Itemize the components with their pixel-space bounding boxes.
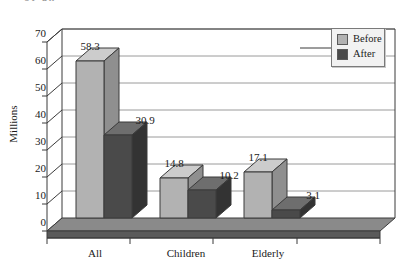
legend-swatch-after-icon (337, 49, 348, 60)
bar-side (132, 122, 147, 218)
bar-face (160, 178, 188, 218)
y-tie-40 (47, 110, 62, 123)
bar-face (104, 135, 132, 218)
legend-item-after: After (337, 47, 380, 62)
y-axis (42, 29, 62, 231)
data-label-children-after: 10.2 (219, 169, 238, 181)
x-axis (47, 238, 380, 244)
y-tie-10 (47, 191, 62, 204)
data-label-children-before: 14.8 (164, 157, 183, 169)
bar-face (188, 190, 216, 218)
legend-item-before: Before (337, 32, 380, 47)
bar-face (244, 172, 272, 218)
y-tie-30 (47, 137, 62, 150)
chart-floor (47, 218, 395, 238)
y-tie-70 (47, 29, 62, 42)
y-tie-20 (47, 164, 62, 177)
legend-label-before: Before (353, 34, 382, 45)
data-label-all-after: 30.9 (135, 114, 154, 126)
x-category-label-elderly: Elderly (252, 247, 284, 259)
floor-top-surface (47, 218, 395, 231)
bar-face (272, 210, 300, 218)
legend-label-after: After (353, 49, 375, 60)
legend: Before After (331, 28, 385, 67)
bar-all-after (104, 122, 147, 218)
bar-chart: of an Millions 70 60 50 40 30 20 10 0 (0, 0, 418, 270)
data-label-elderly-before: 17.1 (248, 151, 267, 163)
x-category-label-all: All (88, 247, 102, 259)
data-label-elderly-after: 3.1 (306, 189, 320, 201)
y-tie-50 (47, 83, 62, 96)
floor-front-face (47, 231, 380, 238)
data-label-all-before: 58.3 (80, 40, 99, 52)
x-category-label-children: Children (167, 247, 206, 259)
legend-swatch-before-icon (337, 34, 348, 45)
y-tie-60 (47, 56, 62, 69)
bar-face (76, 61, 104, 218)
